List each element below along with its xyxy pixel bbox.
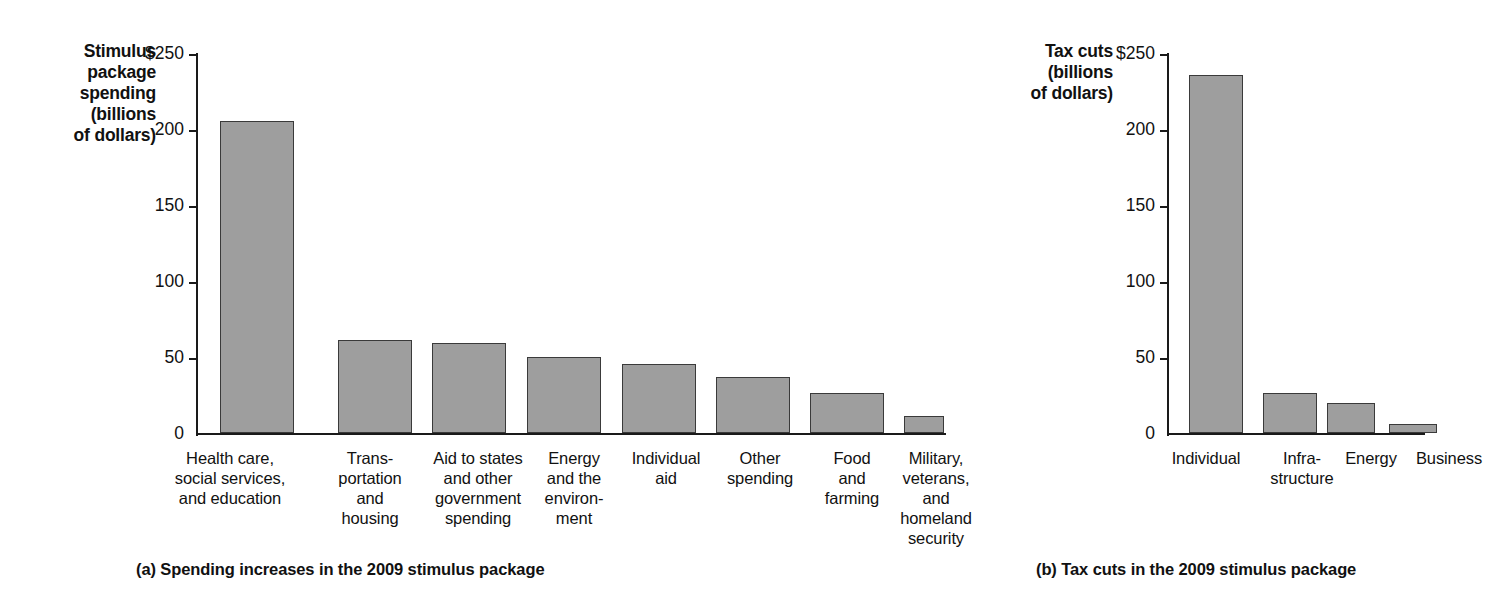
panel-b-plot-area: $250 200 150 100 50 0	[1167, 53, 1425, 435]
bar-food-farming	[810, 393, 884, 433]
panel-b-y-axis-title: Tax cuts (billions of dollars)	[963, 41, 1113, 104]
panel-a-x-axis-line	[196, 433, 946, 435]
panel-b-x-axis-line	[1167, 433, 1425, 435]
bar-other-spending	[716, 377, 790, 433]
bar-individual	[1189, 75, 1243, 433]
bar-military-veterans	[904, 416, 944, 433]
panel-a-ytick-label-100: 100	[155, 273, 184, 291]
bar-energy-environment	[527, 357, 601, 433]
bar-energy	[1327, 403, 1375, 433]
panel-b-ytick-label-150: 150	[1126, 197, 1155, 215]
bar-business	[1389, 424, 1437, 433]
cat-label-health-care: Health care, social services, and educat…	[136, 448, 324, 508]
panel-a-ytick-label-0: 0	[174, 425, 184, 443]
bar-health-care	[220, 121, 294, 433]
bar-transportation	[338, 340, 412, 433]
panel-b-ytick-label-0: 0	[1145, 425, 1155, 443]
panel-a-ytick-label-200: 200	[155, 121, 184, 139]
bar-infrastructure	[1263, 393, 1317, 433]
panel-a-ytick-label-50: 50	[165, 349, 184, 367]
cat-label-business: Business	[1369, 448, 1487, 468]
panel-b-ytick-label-250: $250	[1116, 45, 1155, 63]
panel-b-caption: (b) Tax cuts in the 2009 stimulus packag…	[1036, 560, 1356, 579]
panel-b-ytick-label-50: 50	[1136, 349, 1155, 367]
panel-b-ytick-label-200: 200	[1126, 121, 1155, 139]
panel-a-y-axis-title: Stimulus package spending (billions of d…	[8, 41, 156, 146]
panel-a-y-axis-line	[196, 53, 198, 436]
panel-a-plot-area: $250 200 150 100 50 0	[196, 53, 946, 435]
panel-a-caption: (a) Spending increases in the 2009 stimu…	[136, 560, 544, 579]
panel-a-ytick-label-250: $250	[145, 45, 184, 63]
panel-b-tax-cuts: Tax cuts (billions of dollars) $250 200 …	[955, 0, 1449, 592]
panel-a-spending: Stimulus package spending (billions of d…	[0, 0, 955, 592]
panel-a-ytick-label-150: 150	[155, 197, 184, 215]
bar-aid-to-states	[432, 343, 506, 433]
bar-individual-aid	[622, 364, 696, 433]
panel-b-ytick-label-100: 100	[1126, 273, 1155, 291]
panel-b-y-axis-line	[1167, 53, 1169, 436]
